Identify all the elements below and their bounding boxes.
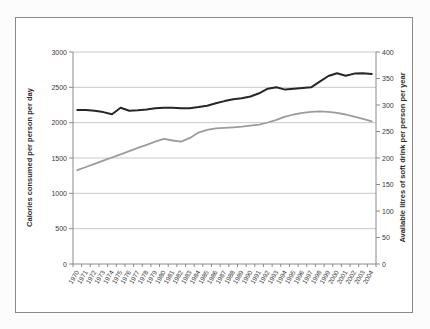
right-axis-tick-label: 100 xyxy=(382,208,394,215)
right-axis-tick-label: 250 xyxy=(382,128,394,135)
chart-figure: 0500100015002000250030000501001502002503… xyxy=(0,0,430,329)
left-axis-title: Calories consumed per person per day xyxy=(25,28,36,288)
right-axis-tick-label: 400 xyxy=(382,49,394,56)
left-axis-tick-label: 3000 xyxy=(51,49,67,56)
soft-drink-line xyxy=(77,111,371,170)
plot-area: 0500100015002000250030000501001502002503… xyxy=(0,0,430,329)
right-axis-tick-label: 0 xyxy=(382,261,386,268)
left-axis-tick-label: 2500 xyxy=(51,84,67,91)
left-axis-tick-label: 1000 xyxy=(51,190,67,197)
right-axis-tick-label: 50 xyxy=(382,234,390,241)
right-axis-tick-label: 200 xyxy=(382,155,394,162)
right-axis-tick-label: 150 xyxy=(382,181,394,188)
left-axis-tick-label: 1500 xyxy=(51,155,67,162)
left-axis-tick-label: 500 xyxy=(55,225,67,232)
right-axis-title: Available litres of soft drink per perso… xyxy=(398,28,409,288)
right-axis-tick-label: 300 xyxy=(382,102,394,109)
right-axis-tick-label: 350 xyxy=(382,75,394,82)
calories-line xyxy=(77,73,371,114)
left-axis-tick-label: 0 xyxy=(63,261,67,268)
left-axis-tick-label: 2000 xyxy=(51,119,67,126)
